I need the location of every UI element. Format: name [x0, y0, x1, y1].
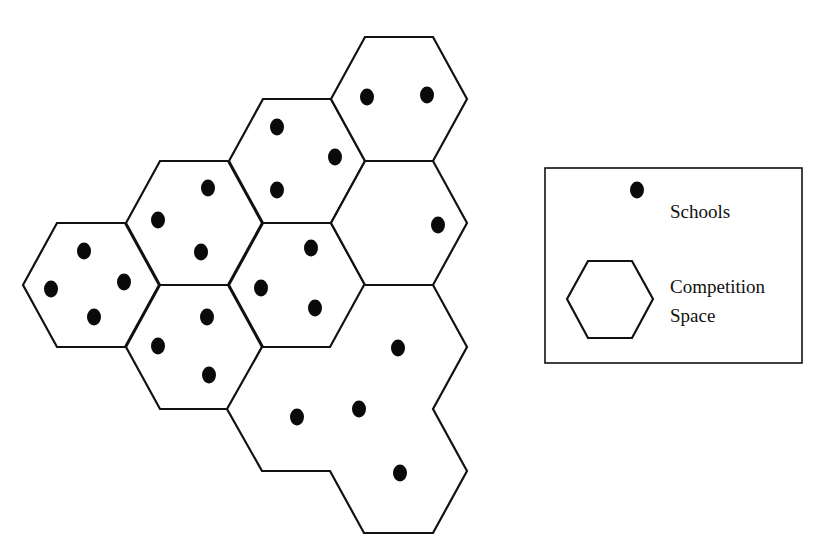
school-dot	[194, 244, 208, 261]
school-dot	[117, 274, 131, 291]
school-dot	[290, 409, 304, 426]
school-dot	[200, 309, 214, 326]
legend-competition-label-line2: Space	[670, 305, 715, 326]
school-dot	[328, 149, 342, 166]
school-dot	[202, 367, 216, 384]
school-dot	[352, 401, 366, 418]
school-dot	[308, 300, 322, 317]
school-dot	[44, 281, 58, 298]
school-dot	[304, 240, 318, 257]
school-dot	[151, 338, 165, 355]
school-dot	[87, 309, 101, 326]
school-dot	[201, 180, 215, 197]
school-dot	[431, 217, 445, 234]
school-dot	[360, 89, 374, 106]
school-dot	[77, 243, 91, 260]
legend: Schools Competition Space	[545, 168, 802, 363]
legend-competition-label-line1: Competition	[670, 276, 766, 297]
legend-box	[545, 168, 802, 363]
legend-schools-label: Schools	[670, 201, 730, 222]
school-dot-icon	[630, 182, 644, 199]
school-dot	[270, 182, 284, 199]
school-dot	[254, 280, 268, 297]
school-dot	[420, 87, 434, 104]
school-dot	[393, 465, 407, 482]
school-dot	[391, 340, 405, 357]
school-dot	[270, 119, 284, 136]
competition-space-diagram: Schools Competition Space	[0, 0, 822, 549]
school-dot	[151, 212, 165, 229]
